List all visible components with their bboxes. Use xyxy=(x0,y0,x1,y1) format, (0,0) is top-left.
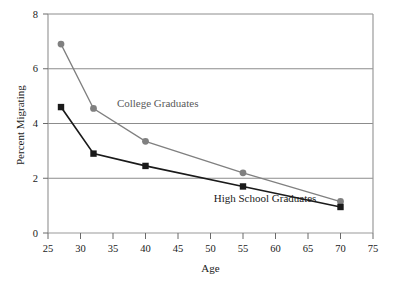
x-tick-label-45: 45 xyxy=(173,243,184,254)
y-tick-label-0: 0 xyxy=(33,228,38,239)
x-tick-label-25: 25 xyxy=(43,243,54,254)
migration-by-age-chart: 0 2 4 6 8 25 30 35 40 45 50 xyxy=(0,0,411,283)
x-tick-label-50: 50 xyxy=(205,243,216,254)
data-point xyxy=(337,204,343,210)
data-point xyxy=(142,163,148,169)
x-tick-label-40: 40 xyxy=(140,243,151,254)
x-tick-label-55: 55 xyxy=(238,243,249,254)
data-point xyxy=(240,183,246,189)
x-axis-title: Age xyxy=(171,262,251,274)
x-tick-label-60: 60 xyxy=(270,243,281,254)
y-axis-tick-labels: 0 2 4 6 8 xyxy=(33,9,39,239)
x-axis-tick-labels: 25 30 35 40 45 50 55 60 65 70 75 xyxy=(43,243,379,254)
x-tick-label-70: 70 xyxy=(335,243,346,254)
y-tick-label-8: 8 xyxy=(33,9,38,20)
data-point xyxy=(90,150,96,156)
data-point xyxy=(58,41,65,48)
y-axis-ticks xyxy=(43,14,48,233)
y-axis-title: Percent Migrating xyxy=(14,85,26,165)
data-point xyxy=(142,138,149,145)
chart-canvas: 0 2 4 6 8 25 30 35 40 45 50 xyxy=(0,0,411,283)
y-tick-label-4: 4 xyxy=(33,118,39,129)
x-axis-ticks xyxy=(48,233,373,239)
y-tick-label-2: 2 xyxy=(33,173,38,184)
x-tick-label-35: 35 xyxy=(108,243,119,254)
data-point xyxy=(90,105,97,112)
x-tick-label-75: 75 xyxy=(368,243,379,254)
data-point xyxy=(58,104,64,110)
y-tick-label-6: 6 xyxy=(33,63,38,74)
x-tick-label-65: 65 xyxy=(303,243,314,254)
data-point xyxy=(240,169,247,176)
annotation-high-school-graduates: High School Graduates xyxy=(214,192,317,204)
x-tick-label-30: 30 xyxy=(75,243,86,254)
annotation-college-graduates: College Graduates xyxy=(117,97,199,109)
